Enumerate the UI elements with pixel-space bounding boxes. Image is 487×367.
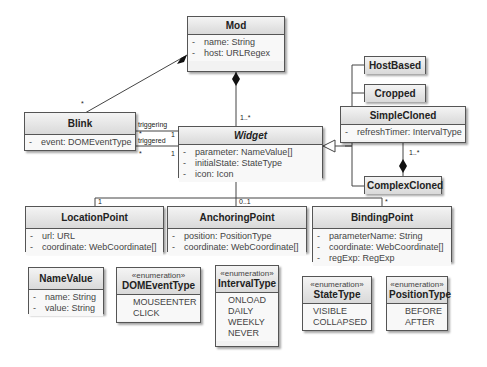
enum-literal: MOUSEENTER (121, 297, 196, 308)
multiplicity-widget-2: 1 (171, 150, 175, 157)
class-name: Mod (188, 17, 284, 35)
attribute: -value: String (33, 303, 99, 314)
attribute: -name: String (33, 292, 99, 303)
enum-literal: AFTER (391, 317, 443, 328)
enum-literal: ONLOAD (220, 295, 274, 306)
attribute: -coordinate: WebCoordinate[] (172, 242, 302, 253)
attribute: -refreshTimer: IntervalType (345, 127, 461, 138)
stereotype-label: «enumeration» (305, 280, 369, 289)
enum-literal: DAILY (220, 306, 274, 317)
multiplicity-binding: * (385, 198, 388, 205)
attribute: -coordinate: WebCoordinate[] (30, 242, 159, 253)
class-bindingpoint[interactable]: BindingPoint -parameterName: String -coo… (312, 206, 452, 262)
multiplicity-mod-widget: 1..* (240, 114, 251, 121)
enum-literal: VISIBLE (307, 306, 367, 317)
multiplicity-blink-1: * (139, 130, 142, 137)
class-name: HostBased (365, 57, 425, 74)
class-widget[interactable]: Widget -parameter: NameValue[] -initialS… (178, 126, 323, 178)
attribute: -parameter: NameValue[] (183, 147, 318, 158)
class-mod[interactable]: Mod -name: String -host: URLRegex (187, 16, 285, 72)
role-triggering: triggering (138, 121, 167, 128)
enum-header: «enumeration» IntervalType (216, 266, 278, 293)
class-name: Cropped (365, 85, 425, 102)
attribute: -host: URLRegex (192, 48, 280, 59)
multiplicity-blink-2: * (139, 150, 142, 157)
attribute: -name: String (192, 37, 280, 48)
class-locationpoint[interactable]: LocationPoint -url: URL -coordinate: Web… (25, 206, 164, 252)
class-name: BindingPoint (313, 207, 451, 229)
stereotype-label: «enumeration» (389, 280, 445, 289)
attribute: -regExp: RegExp (317, 253, 447, 264)
stereotype-label: «enumeration» (218, 269, 276, 278)
class-blink[interactable]: Blink -event: DOMEventType (24, 112, 136, 151)
class-name: NameValue (29, 268, 103, 290)
class-cropped[interactable]: Cropped (364, 84, 426, 102)
class-name: LocationPoint (26, 207, 163, 229)
enum-header: «enumeration» PositionType (387, 277, 447, 304)
attribute: -icon: Icon (183, 169, 318, 180)
class-hostbased[interactable]: HostBased (364, 56, 426, 74)
class-name: AnchoringPoint (168, 207, 306, 229)
attribute: -coordinate: WebCoordinate[] (317, 242, 447, 253)
enum-domeventtype[interactable]: «enumeration» DOMEventType MOUSEENTER CL… (116, 267, 201, 323)
enum-name: StateType (313, 289, 360, 300)
attribute: -parameterName: String (317, 231, 447, 242)
multiplicity-location: 1 (98, 198, 102, 205)
enum-header: «enumeration» DOMEventType (117, 268, 200, 295)
enum-literal: WEEKLY (220, 317, 274, 328)
multiplicity-mod-blink: * (81, 100, 84, 107)
enum-literal: CLICK (121, 308, 196, 319)
enum-literal: COLLAPSED (307, 317, 367, 328)
enum-header: «enumeration» StateType (303, 277, 371, 304)
class-name: Widget (179, 127, 322, 145)
enum-intervaltype[interactable]: «enumeration» IntervalType ONLOAD DAILY … (215, 265, 279, 347)
enum-literal: NEVER (220, 328, 274, 339)
stereotype-label: «enumeration» (119, 271, 198, 280)
enum-name: IntervalType (218, 278, 276, 289)
multiplicity-anchoring: 0..1 (239, 198, 251, 205)
attribute: -url: URL (30, 231, 159, 242)
class-anchoringpoint[interactable]: AnchoringPoint -position: PositionType -… (167, 206, 307, 252)
attribute: -initialState: StateType (183, 158, 318, 169)
multiplicity-simple-complex: 1..* (409, 149, 420, 156)
multiplicity-widget-1: 1 (171, 131, 175, 138)
enum-statetype[interactable]: «enumeration» StateType VISIBLE COLLAPSE… (302, 276, 372, 331)
class-simplecloned[interactable]: SimpleCloned -refreshTimer: IntervalType (340, 106, 466, 143)
enum-positiontype[interactable]: «enumeration» PositionType BEFORE AFTER (386, 276, 448, 331)
class-name: SimpleCloned (341, 107, 465, 125)
enum-name: PositionType (389, 289, 451, 300)
class-complexcloned[interactable]: ComplexCloned (364, 176, 442, 194)
attribute: -event: DOMEventType (29, 137, 131, 148)
role-triggered: triggered (138, 137, 166, 144)
attribute: -position: PositionType (172, 231, 302, 242)
class-name: Blink (25, 113, 135, 135)
class-name: ComplexCloned (365, 177, 441, 194)
class-namevalue[interactable]: NameValue -name: String -value: String (28, 267, 104, 314)
enum-name: DOMEventType (122, 280, 195, 291)
enum-literal: BEFORE (391, 306, 443, 317)
